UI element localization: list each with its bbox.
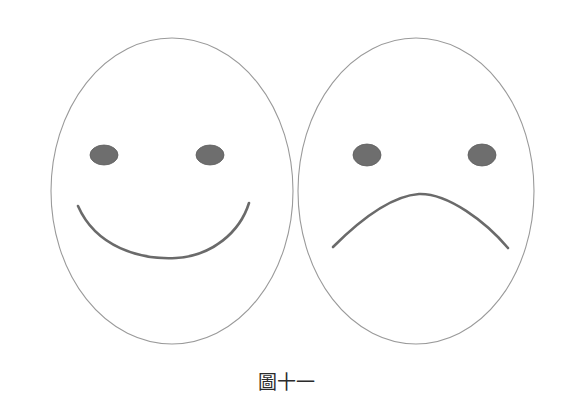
faces-illustration [0,0,572,408]
figure-caption-text: 圖十一 [258,373,315,392]
happy-face-left-eye [90,145,118,165]
figure-caption: 圖十一 [0,362,572,402]
sad-face-right-eye [468,144,496,166]
figure-container: 圖十一 [0,0,572,408]
sad-face-left-eye [353,144,381,166]
canvas-background [0,0,572,408]
happy-face-right-eye [196,145,224,165]
